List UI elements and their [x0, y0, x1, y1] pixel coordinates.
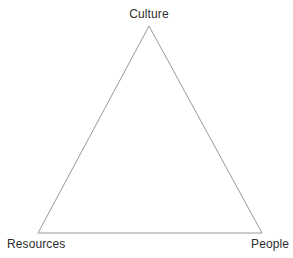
diagram-canvas: Culture Resources People [0, 0, 293, 258]
vertex-label-people: People [251, 237, 289, 251]
vertex-label-culture: Culture [0, 7, 293, 21]
vertex-label-resources: Resources [7, 237, 65, 251]
triangle-shape [0, 0, 293, 258]
triangle-outline [38, 26, 262, 233]
